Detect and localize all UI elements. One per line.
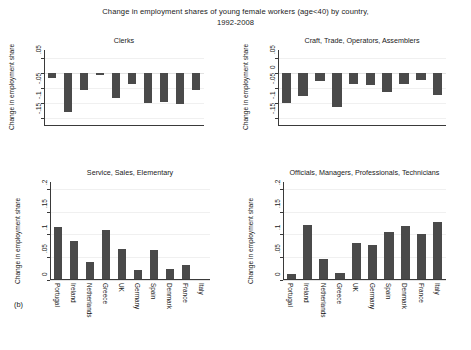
x-axis-ticklabel: Netherlands bbox=[86, 283, 93, 317]
y-axis-tick bbox=[41, 58, 44, 59]
gridline bbox=[283, 257, 446, 258]
x-axis-ticklabel: UK bbox=[118, 283, 125, 292]
x-axis-ticklabel: Germany bbox=[134, 283, 141, 309]
y-axis-tick bbox=[275, 118, 278, 119]
gridline bbox=[278, 73, 446, 74]
y-axis-line bbox=[278, 50, 279, 126]
plot-area-service: 0.05.1.15.2 bbox=[50, 182, 210, 280]
y-axis-tick bbox=[275, 103, 278, 104]
bar bbox=[150, 250, 159, 280]
gridline bbox=[44, 73, 204, 74]
y-axis-tick bbox=[280, 280, 283, 281]
bar bbox=[382, 73, 391, 92]
y-axis-tick bbox=[47, 257, 50, 258]
bar bbox=[192, 73, 201, 90]
bar bbox=[332, 73, 341, 107]
bar bbox=[134, 270, 143, 280]
bar bbox=[102, 230, 111, 280]
plot-area-officials: 0.05.1.15.2 bbox=[283, 182, 446, 280]
bar bbox=[298, 73, 307, 96]
bar bbox=[417, 234, 426, 280]
gridline bbox=[44, 103, 204, 104]
x-axis-ticklabel: Portugal bbox=[54, 283, 61, 307]
x-axis-ticklabel: Italy bbox=[198, 283, 205, 295]
chart-panel-clerks: ClerksChange in employment share.05-.05-… bbox=[0, 0, 471, 350]
bar bbox=[349, 73, 358, 84]
gridline bbox=[278, 103, 446, 104]
bar bbox=[401, 226, 410, 280]
chart-panel-craft: Craft, Trade, Operators, AssemblersChang… bbox=[0, 0, 471, 350]
y-axis-tick bbox=[280, 234, 283, 235]
gridline bbox=[283, 189, 446, 190]
bar bbox=[160, 73, 169, 102]
gridline bbox=[44, 58, 204, 59]
y-axis-label-officials: Change in employment share bbox=[247, 198, 254, 284]
x-axis-ticklabel: Greece bbox=[336, 283, 343, 304]
y-axis-tick bbox=[41, 103, 44, 104]
bar bbox=[303, 225, 312, 280]
y-axis-tick bbox=[275, 58, 278, 59]
x-axis-ticklabel: Ireland bbox=[70, 283, 77, 303]
gridline bbox=[283, 234, 446, 235]
gridline bbox=[50, 234, 210, 235]
chart-title-service: Service, Sales, Elementary bbox=[20, 168, 240, 177]
x-axis-line bbox=[44, 125, 204, 126]
x-axis-ticklabel: UK bbox=[352, 283, 359, 292]
bar bbox=[48, 73, 57, 78]
gridline bbox=[44, 88, 204, 89]
y-axis-tick bbox=[47, 280, 50, 281]
y-axis-tick bbox=[41, 88, 44, 89]
x-axis-ticklabel: Spain bbox=[385, 283, 392, 299]
gridline bbox=[278, 58, 446, 59]
bar bbox=[433, 73, 442, 95]
chart-panel-service: Service, Sales, ElementaryChange in empl… bbox=[0, 0, 471, 350]
bar bbox=[315, 73, 324, 81]
x-axis-ticklabel: France bbox=[418, 283, 425, 303]
x-axis-line bbox=[50, 279, 210, 280]
y-axis-label-service: Change in employment share bbox=[14, 198, 21, 284]
bar bbox=[287, 274, 296, 280]
y-axis-tick bbox=[47, 234, 50, 235]
plot-area-clerks: .05-.05-.1-.15 bbox=[44, 50, 204, 126]
y-axis-label-clerks: Change in employment share bbox=[8, 44, 15, 130]
plot-area-craft: .050-.05-.1-.15 bbox=[278, 50, 446, 126]
y-axis-line bbox=[44, 50, 45, 126]
y-axis-tick bbox=[47, 189, 50, 190]
x-axis-ticklabel: Ireland bbox=[303, 283, 310, 303]
chart-title-officials: Officials, Managers, Professionals, Tech… bbox=[253, 168, 471, 177]
bar bbox=[282, 73, 291, 103]
bar bbox=[144, 73, 153, 103]
x-axis-ticklabel: Germany bbox=[369, 283, 376, 309]
figure-title-line2: 1992-2008 bbox=[0, 17, 471, 28]
panel-letter: (b) bbox=[14, 300, 23, 309]
bar bbox=[80, 73, 89, 90]
x-axis-ticklabel: Denmark bbox=[166, 283, 173, 309]
bar bbox=[86, 262, 95, 280]
x-axis-ticklabel: Netherlands bbox=[320, 283, 327, 317]
y-axis-tick bbox=[41, 73, 44, 74]
x-axis-ticklabel: Greece bbox=[102, 283, 109, 304]
gridline bbox=[44, 118, 204, 119]
y-axis-line bbox=[50, 182, 51, 280]
x-axis-ticklabel: Italy bbox=[434, 283, 441, 295]
bar bbox=[54, 227, 63, 280]
bar bbox=[366, 73, 375, 85]
gridline bbox=[283, 212, 446, 213]
bar bbox=[335, 273, 344, 280]
gridline bbox=[283, 280, 446, 281]
figure-title-line1: Change in employment shares of young fem… bbox=[102, 7, 368, 16]
y-axis-tick bbox=[41, 118, 44, 119]
bar bbox=[176, 73, 185, 104]
bar bbox=[352, 243, 361, 280]
gridline bbox=[50, 257, 210, 258]
figure-title: Change in employment shares of young fem… bbox=[0, 6, 471, 28]
bar bbox=[96, 73, 105, 75]
y-axis-tick bbox=[280, 212, 283, 213]
x-axis-ticklabel: Spain bbox=[150, 283, 157, 299]
x-axis-line bbox=[283, 279, 446, 280]
bar bbox=[64, 73, 73, 112]
chart-panel-officials: Officials, Managers, Professionals, Tech… bbox=[0, 0, 471, 350]
x-axis-line bbox=[278, 125, 446, 126]
y-axis-tick bbox=[280, 257, 283, 258]
x-axis-ticklabel: Portugal bbox=[287, 283, 294, 307]
